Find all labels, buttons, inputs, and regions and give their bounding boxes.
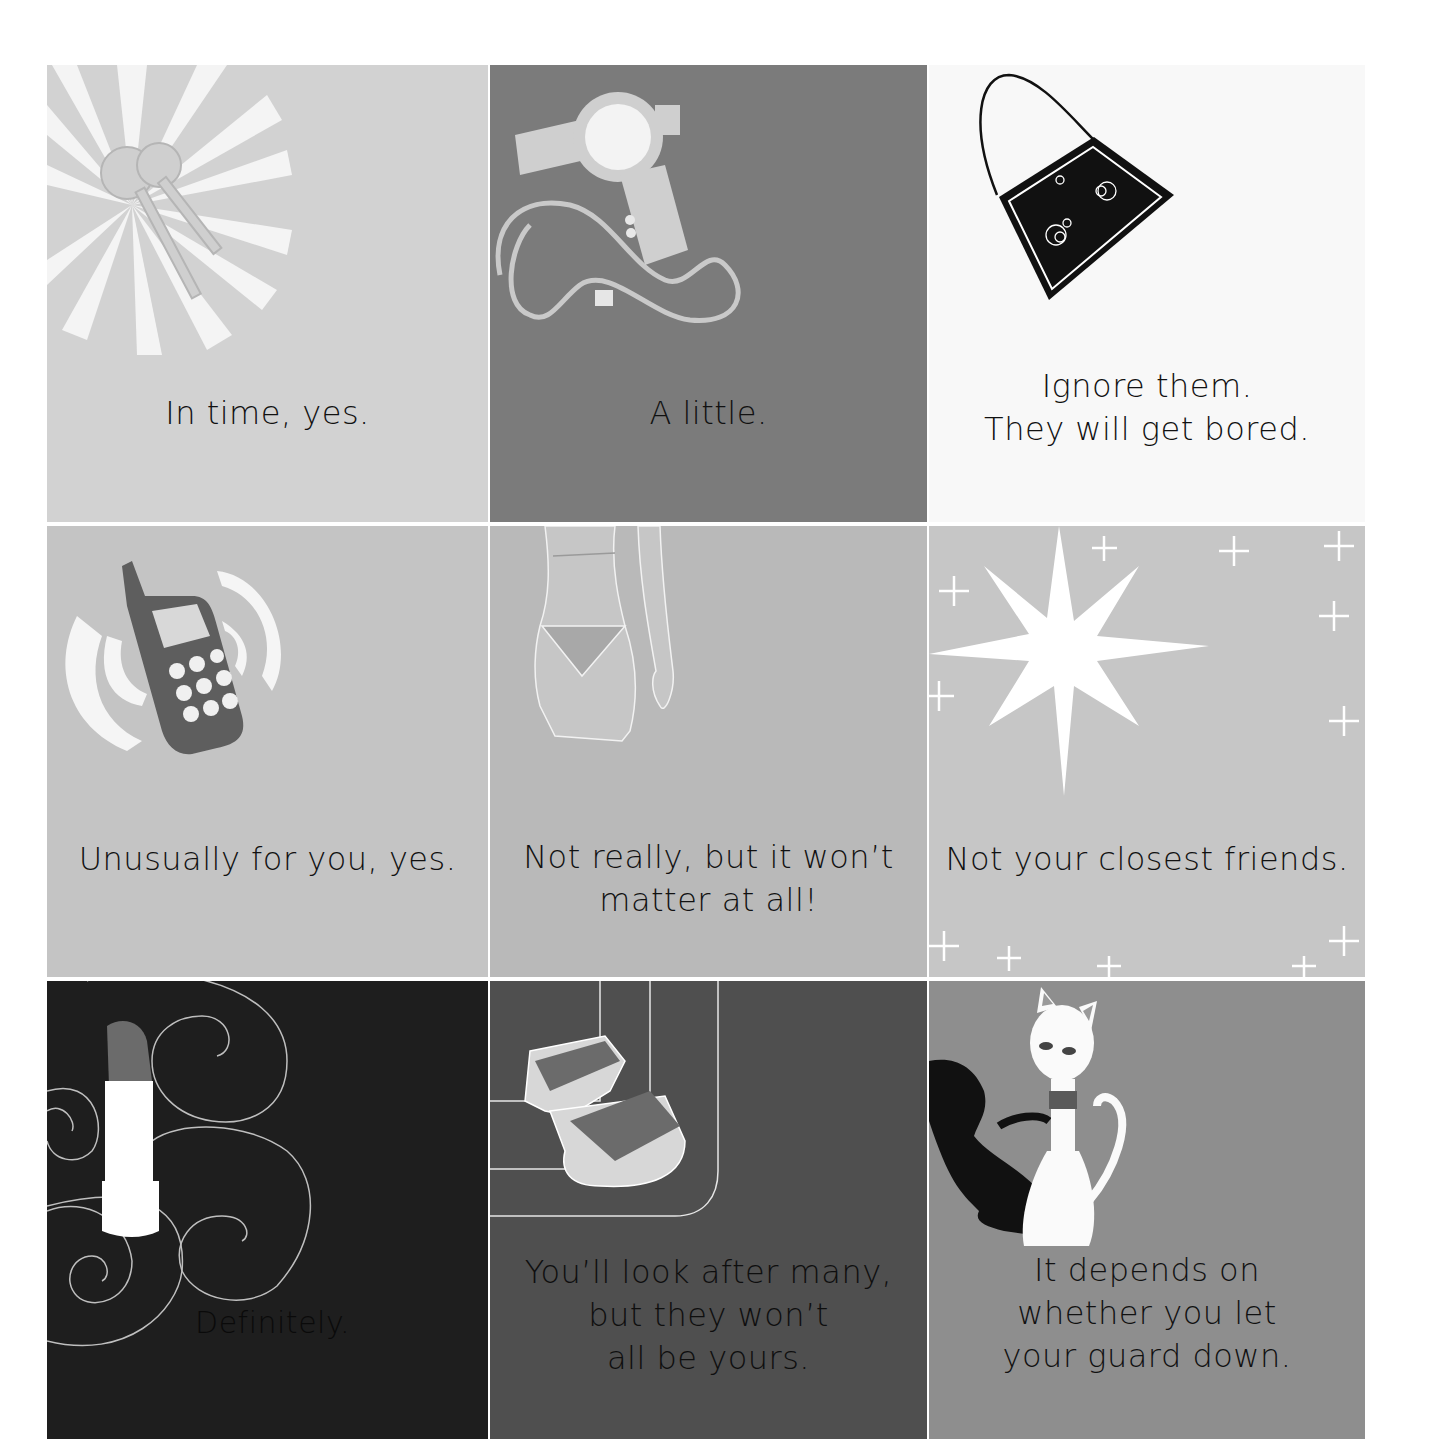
sparkle-star-icon <box>929 526 1365 977</box>
tile-definitely: Definitely. <box>47 981 488 1439</box>
handbag-icon <box>929 65 1365 522</box>
caption: Not your closest friends. <box>929 838 1365 881</box>
tile-unusually-for-you: Unusually for you, yes. <box>47 526 488 977</box>
tile-not-really: Not really, but it won’t matter at all! <box>490 526 927 977</box>
answer-grid: In time, yes. A little. Ignore them. The… <box>47 65 1365 1439</box>
caption: It depends on whether you let your guard… <box>929 1249 1365 1379</box>
lipstick-icon <box>47 981 488 1439</box>
caption: A little. <box>490 392 927 435</box>
caption: Unusually for you, yes. <box>47 838 488 881</box>
tile-youll-look-after-many: You’ll look after many, but they won’t a… <box>490 981 927 1439</box>
tile-in-time-yes: In time, yes. <box>47 65 488 522</box>
mobile-phone-icon <box>47 526 488 977</box>
caption: Definitely. <box>47 1303 488 1344</box>
caption: Ignore them. They will get bored. <box>929 365 1365 451</box>
caption: You’ll look after many, but they won’t a… <box>490 1251 927 1381</box>
tile-ignore-them: Ignore them. They will get bored. <box>929 65 1365 522</box>
hair-dryer-icon <box>490 65 927 522</box>
caption: In time, yes. <box>47 392 488 435</box>
tile-it-depends: It depends on whether you let your guard… <box>929 981 1365 1439</box>
keys-icon <box>47 65 488 522</box>
caption: Not really, but it won’t matter at all! <box>490 836 927 922</box>
tile-not-your-closest-friends: Not your closest friends. <box>929 526 1365 977</box>
tile-a-little: A little. <box>490 65 927 522</box>
